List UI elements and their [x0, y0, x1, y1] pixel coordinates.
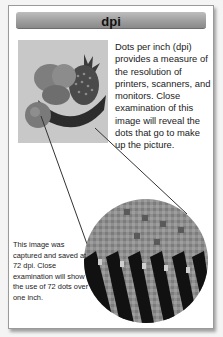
magnified-pixel-circle [84, 199, 208, 323]
pixel-grid-icon [84, 199, 208, 323]
dpi-info-card: dpi Dots per inch (dpi) provides a mea [8, 5, 214, 329]
dpi-caption: This image was captured and saved at 72 … [13, 240, 93, 304]
